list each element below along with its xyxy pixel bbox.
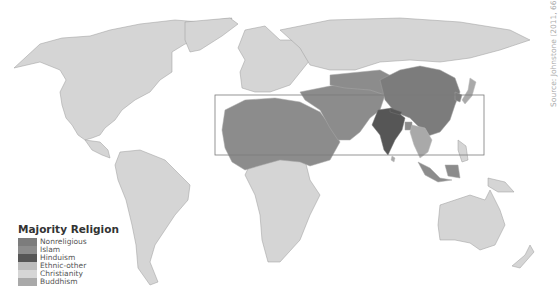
greenland xyxy=(185,18,238,52)
philippines xyxy=(458,140,468,162)
swatch xyxy=(18,278,37,286)
swatch xyxy=(18,238,37,246)
hinduism-regions xyxy=(372,108,405,155)
swatch xyxy=(18,262,37,270)
legend-label: Buddhism xyxy=(40,278,77,286)
central-america xyxy=(85,140,110,158)
russia xyxy=(280,18,530,70)
japan xyxy=(462,78,476,104)
north-korea xyxy=(455,92,462,102)
sri-lanka xyxy=(391,156,395,162)
source-credit: Source: Johnstone (2011, 66) xyxy=(549,0,558,108)
papua xyxy=(488,178,514,192)
legend-item-buddhism: Buddhism xyxy=(18,278,119,286)
indonesia xyxy=(418,162,460,182)
australia xyxy=(438,190,505,250)
legend: Majority Religion Nonreligious Islam Hin… xyxy=(18,223,119,286)
swatch xyxy=(18,270,37,278)
legend-title: Majority Religion xyxy=(18,223,119,235)
africa-south xyxy=(245,158,320,262)
legend-item-nonreligious: Nonreligious xyxy=(18,238,119,246)
south-america xyxy=(115,150,190,285)
new-zealand xyxy=(512,245,534,268)
swatch xyxy=(18,254,37,262)
swatch xyxy=(18,246,37,254)
